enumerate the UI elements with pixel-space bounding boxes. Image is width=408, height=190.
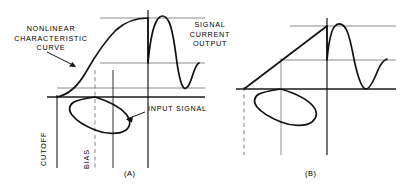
input-signal-waveform-a [70,97,130,133]
label-bias: BIAS [82,149,91,169]
panel-b-graphics [236,18,396,155]
leader-input-signal [127,112,145,119]
panel-label-b: (B) [305,169,317,178]
label-nonlinear-characteristic-curve: NONLINEAR CHARACTERISTIC CURVE [8,24,94,53]
linear-characteristic-curve [244,26,327,89]
panel-label-a: (A) [124,169,136,178]
leader-nonlinear-curve [47,52,75,66]
figure-root: NONLINEAR CHARACTERISTIC CURVE SIGNAL CU… [0,0,408,190]
label-input-signal: INPUT SIGNAL [148,104,210,114]
label-signal-current-output: SIGNAL CURRENT OUTPUT [178,20,242,49]
output-signal-waveform-b [327,24,387,89]
label-cutoff: CUTOFF [39,132,48,166]
arrowhead-nonlinear-curve [69,62,76,67]
input-signal-waveform-b [255,89,317,125]
